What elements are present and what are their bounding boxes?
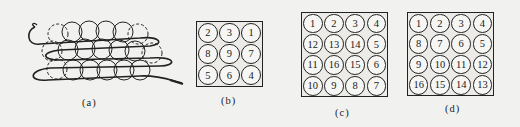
panel-a: (a) — [0, 0, 190, 127]
cell-circle: 9 — [324, 76, 344, 96]
grid-cell: 9 — [408, 54, 429, 75]
panel-a-label: (a) — [82, 97, 97, 108]
cell-circle: 6 — [451, 34, 471, 54]
cell-circle: 15 — [345, 55, 365, 75]
cell-circle: 3 — [451, 14, 471, 34]
grid-cell: 15 — [429, 75, 450, 96]
cell-circle: 10 — [430, 55, 450, 75]
cell-circle: 7 — [241, 44, 261, 64]
grid-cell: 8 — [408, 34, 429, 55]
grid-cell: 5 — [366, 34, 387, 55]
cell-circle: 9 — [409, 55, 429, 75]
grid-cell: 1 — [240, 22, 262, 43]
grid-cell: 4 — [240, 65, 262, 86]
grid-cell: 16 — [323, 55, 344, 76]
grid-cell: 8 — [345, 75, 366, 96]
grid-cell: 11 — [302, 55, 323, 76]
grid-cell: 4 — [472, 13, 493, 34]
grid-cell: 5 — [197, 65, 219, 86]
cell-circle: 8 — [198, 44, 218, 64]
grid-cell: 12 — [302, 34, 323, 55]
cell-circle: 5 — [473, 34, 493, 54]
cell-circle: 12 — [473, 55, 493, 75]
cell-circle: 12 — [303, 34, 323, 54]
cell-circle: 7 — [430, 34, 450, 54]
cell-circle: 5 — [198, 65, 218, 85]
cell-circle: 15 — [430, 75, 450, 95]
cell-circle: 4 — [367, 14, 387, 34]
grid-cell: 14 — [345, 34, 366, 55]
grid-cell: 7 — [366, 75, 387, 96]
grid-cell: 8 — [197, 43, 219, 64]
cell-circle: 7 — [367, 76, 387, 96]
grid-cell: 13 — [323, 34, 344, 55]
cell-circle: 1 — [241, 23, 261, 43]
cell-circle: 1 — [409, 14, 429, 34]
cell-circle: 13 — [473, 75, 493, 95]
grid-4x4-serpentine: 12348765910111216151413 — [407, 12, 494, 96]
grid-cell: 2 — [323, 13, 344, 34]
grid-cell: 6 — [366, 55, 387, 76]
cell-circle: 1 — [303, 14, 323, 34]
grid-cell: 2 — [197, 22, 219, 43]
cell-circle: 3 — [219, 23, 239, 43]
grid-cell: 11 — [451, 54, 472, 75]
cell-circle: 10 — [303, 76, 323, 96]
cell-circle: 8 — [409, 34, 429, 54]
grid-cell: 3 — [451, 13, 472, 34]
grid-4x4-spiral: 12341213145111615610987 — [301, 12, 388, 97]
grid-cell: 7 — [240, 43, 262, 64]
grid-cell: 1 — [302, 13, 323, 34]
cell-circle: 4 — [241, 65, 261, 85]
grid-cell: 9 — [219, 43, 241, 64]
cell-circle: 5 — [367, 34, 387, 54]
grid-cell: 4 — [366, 13, 387, 34]
grid-cell: 16 — [408, 75, 429, 96]
grid-cell: 7 — [429, 34, 450, 55]
cell-circle: 11 — [303, 55, 323, 75]
cell-circle: 2 — [324, 14, 344, 34]
panel-d-label: (d) — [445, 103, 460, 114]
grid-cell: 6 — [451, 34, 472, 55]
cell-circle: 16 — [324, 55, 344, 75]
grid-cell: 13 — [472, 75, 493, 96]
grid-cell: 14 — [451, 75, 472, 96]
cell-circle: 2 — [198, 23, 218, 43]
cell-circle: 8 — [345, 76, 365, 96]
cell-circle: 3 — [345, 14, 365, 34]
cell-circle: 2 — [430, 14, 450, 34]
cell-circle: 11 — [451, 55, 471, 75]
grid-3x3: 231897564 — [196, 21, 263, 87]
grid-cell: 3 — [219, 22, 241, 43]
cell-circle: 16 — [409, 75, 429, 95]
grid-cell: 9 — [323, 75, 344, 96]
grid-cell: 12 — [472, 54, 493, 75]
grid-cell: 10 — [302, 75, 323, 96]
panel-b-label: (b) — [221, 95, 236, 106]
cell-circle: 14 — [451, 75, 471, 95]
cell-circle: 13 — [324, 34, 344, 54]
grid-cell: 1 — [408, 13, 429, 34]
grid-cell: 3 — [345, 13, 366, 34]
cell-circle: 4 — [473, 14, 493, 34]
cell-circle: 6 — [367, 55, 387, 75]
grid-cell: 6 — [219, 65, 241, 86]
cell-circle: 9 — [219, 44, 239, 64]
grid-cell: 15 — [345, 55, 366, 76]
grid-cell: 5 — [472, 34, 493, 55]
grid-cell: 2 — [429, 13, 450, 34]
panel-c-label: (c) — [335, 107, 350, 118]
cell-circle: 14 — [345, 34, 365, 54]
cell-circle: 6 — [219, 65, 239, 85]
grid-cell: 10 — [429, 54, 450, 75]
